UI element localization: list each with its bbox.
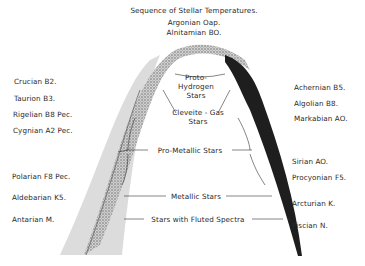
left-label: Polarian F8 Pec.	[12, 172, 70, 181]
right-label: Arcturian K.	[292, 199, 335, 208]
right-label: Achernian B5.	[294, 83, 345, 92]
right-label: Markabian AO.	[294, 114, 348, 123]
diagram-title: Sequence of Stellar Temperatures.	[130, 6, 257, 15]
pro-metallic-label: Pro-Metallic Stars	[158, 146, 223, 155]
left-label: Aldebarian K5.	[12, 193, 66, 202]
left-label: Cygnian A2 Pec.	[13, 126, 73, 135]
right-dark-band	[225, 55, 302, 256]
right-label: Algolian B8.	[294, 99, 338, 108]
left-label: Taurion B3.	[14, 94, 55, 103]
metallic-label: Metallic Stars	[171, 192, 221, 201]
left-label: Crucian B2.	[14, 77, 57, 86]
left-label: Rigelian B8 Pec.	[13, 110, 72, 119]
right-label: Piscian N.	[292, 221, 328, 230]
left-label: Antarian M.	[12, 215, 54, 224]
cleveite-gas-label-1: Cleveite - Gas	[172, 108, 224, 117]
proto-hydrogen-label-2: Hydrogen	[178, 82, 214, 91]
top-label-alnitamian: Alnitamian BO.	[167, 28, 222, 37]
right-label: Procyonian F5.	[292, 173, 346, 182]
cleveite-gas-label-2: Stars	[189, 117, 208, 126]
fluted-spectra-label: Stars with Fluted Spectra	[151, 215, 244, 224]
top-label-argonian: Argonian Oap.	[168, 18, 221, 27]
right-label: Sirian AO.	[292, 157, 328, 166]
proto-hydrogen-label-3: Stars	[187, 91, 206, 100]
proto-hydrogen-label-1: Proto-	[185, 73, 207, 82]
